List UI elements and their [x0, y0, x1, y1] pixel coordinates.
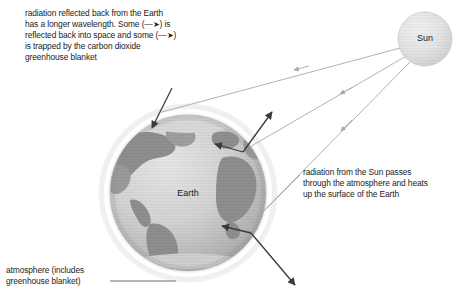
reflected-radiation-note: radiation reflected back from the Earth …	[25, 8, 176, 63]
atmosphere-caption: atmosphere (includes greenhouse blanket)	[6, 265, 84, 287]
earth-label: Earth	[148, 188, 228, 198]
incoming-radiation-note: radiation from the Sun passes through th…	[303, 167, 428, 200]
greenhouse-effect-diagram: radiation reflected back from the Earth …	[0, 0, 470, 305]
sun-label: Sun	[398, 33, 452, 43]
